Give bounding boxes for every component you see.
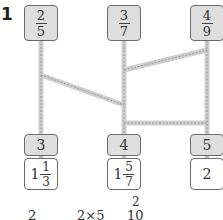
top-box-2: 37 [107,5,141,41]
value-box-3: 2 [190,158,223,190]
middle-box-2: 4 [107,134,141,156]
value-box-1: 113 [24,158,58,190]
top-box-3: 49 [190,5,223,41]
value-box-2: 157 [107,158,141,190]
bottom-partial-text: 2 2×5 2 10 [0,199,223,220]
middle-box-3: 5 [190,134,223,156]
top-box-1: 25 [24,5,58,41]
middle-box-1: 3 [24,134,58,156]
